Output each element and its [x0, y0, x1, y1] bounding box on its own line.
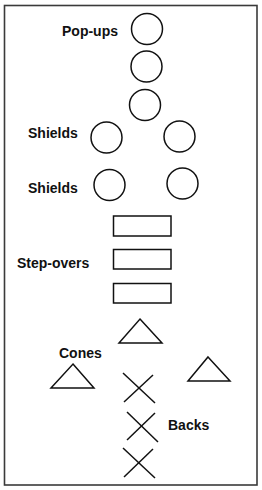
shields-row-2-group: Shields — [28, 168, 198, 201]
cones-label: Cones — [59, 345, 102, 361]
shield-circle-icon — [94, 170, 125, 201]
popup-circle-icon — [130, 90, 161, 121]
shields-row-1-group: Shields — [28, 121, 195, 153]
stepovers-label: Step-overs — [17, 255, 90, 271]
shields-row-2-label: Shields — [28, 180, 78, 196]
formation-diagram: Pop-ups Shields Shields Step-overs Cones — [0, 0, 262, 490]
stepover-rectangle-icon — [114, 216, 172, 236]
back-x-icon — [123, 373, 155, 403]
stepover-rectangle-icon — [114, 250, 172, 270]
back-x-icon — [127, 412, 158, 442]
diagram-canvas: Pop-ups Shields Shields Step-overs Cones — [0, 0, 262, 490]
popup-circle-icon — [131, 51, 162, 82]
backs-label: Backs — [168, 417, 209, 433]
shield-circle-icon — [167, 168, 198, 199]
shield-circle-icon — [164, 121, 195, 152]
cone-triangle-icon — [51, 364, 94, 388]
diagram-frame — [5, 6, 258, 486]
popup-circle-icon — [132, 14, 163, 45]
popups-group: Pop-ups — [62, 14, 163, 121]
cones-group: Cones — [51, 319, 230, 388]
stepover-rectangle-icon — [114, 284, 172, 304]
stepovers-group: Step-overs — [17, 216, 171, 303]
shield-circle-icon — [91, 122, 122, 153]
popups-label: Pop-ups — [62, 23, 118, 39]
shields-row-1-label: Shields — [28, 125, 78, 141]
back-x-icon — [123, 448, 155, 478]
cone-triangle-icon — [119, 319, 162, 343]
backs-group: Backs — [123, 373, 209, 478]
cone-triangle-icon — [188, 357, 230, 381]
